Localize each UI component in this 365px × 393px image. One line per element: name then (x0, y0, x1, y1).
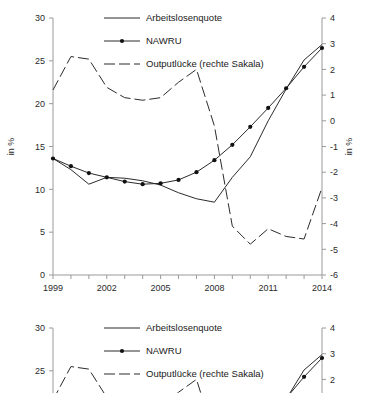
series-path-3 (53, 57, 322, 245)
legend-label-2: NAWRU (146, 345, 182, 356)
series-marker (266, 106, 270, 110)
legend-item-3[interactable]: Outputlücke (rechte Sakala) (104, 58, 264, 69)
left-axis-ticks: 051015202530 (35, 13, 53, 280)
legend-label-1: Arbeitslosenquote (146, 322, 222, 333)
legend-item-3[interactable]: Outputlücke (rechte Sakala) (104, 368, 264, 379)
series-marker (248, 125, 252, 129)
right-axis-ticks: -6-5-4-3-2-101234 (322, 13, 338, 280)
legend: ArbeitslosenquoteNAWRUOutputlücke (recht… (104, 322, 264, 379)
axes-group (53, 18, 322, 275)
left-tick-label: 15 (35, 142, 45, 152)
chart-panel-top: 051015202530-6-5-4-3-2-10123419992002200… (0, 0, 365, 310)
right-tick-label: -5 (330, 245, 338, 255)
x-tick-label: 1999 (43, 283, 63, 293)
legend-label-3: Outputlücke (rechte Sakala) (146, 368, 264, 379)
series-marker (230, 143, 234, 147)
left-axis-ticks: 051015202530 (35, 323, 53, 393)
right-tick-label: -6 (330, 270, 338, 280)
left-tick-label: 25 (35, 366, 45, 376)
series-marker (123, 180, 127, 184)
right-tick-label: -2 (330, 167, 338, 177)
series-marker (105, 175, 109, 179)
right-tick-label: -3 (330, 193, 338, 203)
series-marker (302, 375, 306, 379)
legend-label-2: NAWRU (146, 35, 182, 46)
right-tick-label: 4 (330, 13, 335, 23)
right-tick-label: 1 (330, 90, 335, 100)
x-tick-label: 2011 (259, 283, 278, 293)
axis-titles: in %in % (6, 138, 354, 156)
series-marker (176, 178, 180, 182)
left-tick-label: 25 (35, 56, 45, 66)
x-tick-label: 2008 (204, 283, 224, 293)
left-tick-label: 0 (40, 270, 45, 280)
chart-svg-1: 051015202530-6-5-4-3-2-10123419992002200… (0, 0, 365, 310)
right-tick-label: 0 (330, 116, 335, 126)
series-marker (320, 356, 324, 360)
right-tick-label: -1 (330, 142, 338, 152)
series-marker (212, 158, 216, 162)
figure-container: 051015202530-6-5-4-3-2-10123419992002200… (0, 0, 365, 393)
series-marker (284, 86, 288, 90)
right-axis-ticks: -6-5-4-3-2-101234 (322, 323, 338, 393)
series-marker (51, 156, 55, 160)
series-marker (159, 181, 163, 185)
right-tick-label: 2 (330, 375, 335, 385)
series-marker (302, 65, 306, 69)
legend-label-3: Outputlücke (rechte Sakala) (146, 58, 264, 69)
series-marker (69, 164, 73, 168)
left-tick-label: 10 (35, 185, 45, 195)
left-tick-label: 5 (40, 227, 45, 237)
legend: ArbeitslosenquoteNAWRUOutputlücke (recht… (104, 12, 264, 69)
left-tick-label: 20 (35, 99, 45, 109)
legend-marker (120, 39, 124, 43)
axes-group (53, 328, 322, 393)
right-tick-label: 3 (330, 349, 335, 359)
left-axis-title: in % (6, 138, 16, 156)
right-tick-label: 3 (330, 39, 335, 49)
series-marker (194, 170, 198, 174)
series-group (51, 45, 324, 245)
legend-item-1[interactable]: Arbeitslosenquote (104, 322, 222, 333)
right-tick-label: 4 (330, 323, 335, 333)
right-tick-label: 2 (330, 65, 335, 75)
x-axis-ticks: 199920022005200820112014 (43, 275, 332, 293)
legend-item-2[interactable]: NAWRU (104, 35, 182, 46)
series-marker (87, 171, 91, 175)
right-axis-title: in % (344, 138, 354, 156)
series-marker (141, 182, 145, 186)
x-tick-label: 2014 (312, 283, 332, 293)
chart-svg-2: 051015202530-6-5-4-3-2-10123419992002200… (0, 310, 365, 393)
x-tick-label: 2005 (151, 283, 171, 293)
left-tick-label: 30 (35, 13, 45, 23)
legend-marker (120, 349, 124, 353)
left-tick-label: 30 (35, 323, 45, 333)
legend-item-2[interactable]: NAWRU (104, 345, 182, 356)
legend-label-1: Arbeitslosenquote (146, 12, 222, 23)
chart-panel-bottom: 051015202530-6-5-4-3-2-10123419992002200… (0, 310, 365, 393)
legend-item-1[interactable]: Arbeitslosenquote (104, 12, 222, 23)
series-marker (320, 46, 324, 50)
right-tick-label: -4 (330, 219, 338, 229)
x-tick-label: 2002 (97, 283, 117, 293)
